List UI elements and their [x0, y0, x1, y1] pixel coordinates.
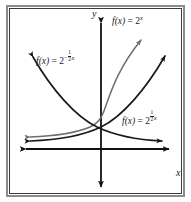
graph-canvas — [10, 9, 185, 197]
curve-label-2-to-the-neg-half-x: f(x) = 2−12x — [36, 50, 74, 66]
y-axis-label: y — [92, 9, 96, 19]
curve-label-2-to-the-x: f(x) = 2x — [112, 17, 143, 27]
label-equals: = — [138, 116, 143, 126]
label-fn-arg: (x) — [115, 16, 126, 26]
figure-outer-border — [6, 5, 185, 197]
label-exponent-variable: x — [154, 114, 157, 121]
label-exponent-variable: x — [71, 54, 74, 61]
label-equals: = — [52, 56, 57, 66]
exponential-graph-figure: f(x) = 2x f(x) = 2−12x f(x) = 212x y x — [0, 0, 191, 202]
label-fn-arg: (x) — [125, 116, 136, 126]
x-axis-label: x — [176, 168, 180, 178]
label-exponent: x — [140, 14, 143, 21]
figure-inner-border — [9, 8, 182, 194]
curve-2-to-the-half-x — [30, 56, 165, 141]
label-equals: = — [128, 16, 133, 26]
curve-label-2-to-the-half-x: f(x) = 212x — [122, 110, 157, 126]
label-fn-arg: (x) — [39, 56, 50, 66]
